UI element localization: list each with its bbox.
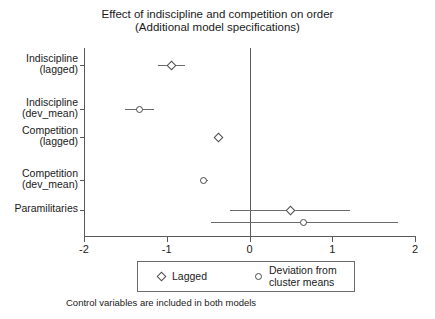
estimate-marker-diamond: [167, 61, 177, 71]
y-axis-line: [84, 48, 85, 236]
y-axis-label-line: Paramilitaries: [0, 203, 78, 215]
zero-reference-line: [250, 48, 251, 236]
y-axis-label-4: Competition(dev_mean): [0, 168, 78, 191]
y-axis-tick: [80, 65, 85, 66]
y-axis-label-line: (lagged): [0, 136, 78, 148]
legend-marker-diamond-icon: [157, 272, 167, 282]
legend-marker-circle-icon: [255, 273, 262, 280]
coefficient-plot-figure: Effect of indiscipline and competition o…: [0, 0, 435, 319]
x-axis-tick-label: 1: [317, 243, 347, 255]
chart-title-line1: Effect of indiscipline and competition o…: [0, 8, 435, 21]
legend-label: Lagged: [172, 271, 207, 283]
chart-title: Effect of indiscipline and competition o…: [0, 8, 435, 34]
estimate-marker-circle: [200, 177, 207, 184]
legend-entry-1: Lagged: [158, 262, 207, 291]
y-axis-label-3: Competition(lagged): [0, 125, 78, 148]
x-axis-tick-label: 0: [235, 243, 265, 255]
plot-area: [84, 48, 415, 236]
x-axis-tick: [84, 237, 85, 242]
x-axis-tick: [332, 237, 333, 242]
estimate-marker-circle: [136, 106, 143, 113]
y-axis-tick: [80, 180, 85, 181]
chart-subtitle: (Additional model specifications): [0, 21, 435, 34]
legend-entry-2: Deviation from cluster means: [255, 262, 337, 291]
y-axis-label-2: Indiscipline(dev_mean): [0, 97, 78, 120]
x-axis-tick: [415, 237, 416, 242]
legend-label: Deviation from cluster means: [269, 265, 337, 288]
x-axis-tick: [167, 237, 168, 242]
y-axis-tick: [80, 137, 85, 138]
y-axis-label-line: (dev_mean): [0, 179, 78, 191]
x-axis-tick-label: -2: [69, 243, 99, 255]
y-axis-label-1: Indiscipline(lagged): [0, 53, 78, 76]
y-axis-label-5: Paramilitaries: [0, 203, 78, 215]
x-axis-tick: [250, 237, 251, 242]
y-axis-label-line: (dev_mean): [0, 108, 78, 120]
estimate-marker-circle: [300, 219, 307, 226]
y-axis-tick: [80, 109, 85, 110]
x-axis-tick-label: -1: [152, 243, 182, 255]
y-axis-label-line: (lagged): [0, 64, 78, 76]
estimate-marker-diamond: [285, 206, 295, 216]
x-axis-tick-label: 2: [400, 243, 430, 255]
legend: LaggedDeviation from cluster means: [137, 261, 355, 292]
y-axis-tick: [80, 210, 85, 211]
estimate-marker-diamond: [213, 133, 223, 143]
chart-caption: Control variables are included in both m…: [66, 297, 256, 308]
